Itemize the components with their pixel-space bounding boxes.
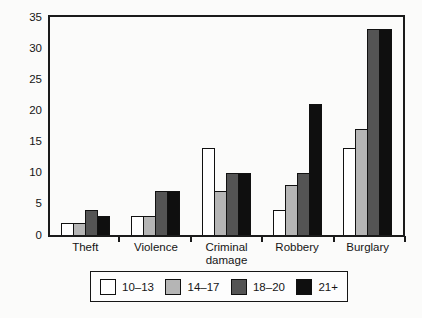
y-tick-label-15: 15 bbox=[12, 135, 42, 148]
bar-group-violence bbox=[121, 17, 192, 235]
y-tick-label-20: 20 bbox=[12, 104, 42, 117]
legend-label-14-17: 14–17 bbox=[187, 281, 219, 293]
legend-item-14-17: 14–17 bbox=[165, 279, 219, 295]
y-tick-label-25: 25 bbox=[12, 73, 42, 86]
legend-label-10-13: 10–13 bbox=[122, 281, 154, 293]
legend-item-21plus: 21+ bbox=[296, 279, 338, 295]
y-tick-label-30: 30 bbox=[12, 42, 42, 55]
legend-swatch-10-13 bbox=[100, 279, 116, 295]
bar-group-burglary bbox=[332, 17, 403, 235]
bar-burglary-21plus bbox=[379, 29, 392, 235]
legend: 10–1314–1718–2021+ bbox=[90, 271, 348, 302]
bar-violence-21plus bbox=[167, 191, 180, 235]
bar-criminal-damage-21plus bbox=[238, 173, 251, 235]
legend-swatch-18-20 bbox=[231, 279, 247, 295]
x-axis-tick bbox=[404, 236, 406, 242]
y-tick-label-0: 0 bbox=[12, 229, 42, 242]
plot-area bbox=[48, 15, 405, 237]
x-category-label-violence: Violence bbox=[121, 241, 191, 254]
legend-swatch-21plus bbox=[296, 279, 312, 295]
bar-group-theft bbox=[50, 17, 121, 235]
x-category-label-robbery: Robbery bbox=[262, 241, 332, 254]
y-tick-label-5: 5 bbox=[12, 197, 42, 210]
legend-label-21plus: 21+ bbox=[318, 281, 338, 293]
legend-item-18-20: 18–20 bbox=[231, 279, 285, 295]
x-category-label-criminal-damage: Criminal damage bbox=[192, 241, 262, 267]
y-tick-label-35: 35 bbox=[12, 11, 42, 24]
bar-theft-21plus bbox=[97, 216, 110, 235]
legend-swatch-14-17 bbox=[165, 279, 181, 295]
bar-group-robbery bbox=[262, 17, 333, 235]
bar-robbery-21plus bbox=[309, 104, 322, 235]
bar-group-criminal-damage bbox=[191, 17, 262, 235]
y-tick-label-10: 10 bbox=[12, 166, 42, 179]
legend-item-10-13: 10–13 bbox=[100, 279, 154, 295]
legend-label-18-20: 18–20 bbox=[253, 281, 285, 293]
bar-chart-figure: 05101520253035 TheftViolenceCriminal dam… bbox=[0, 0, 422, 318]
x-category-label-theft: Theft bbox=[50, 241, 120, 254]
x-category-label-burglary: Burglary bbox=[333, 241, 403, 254]
